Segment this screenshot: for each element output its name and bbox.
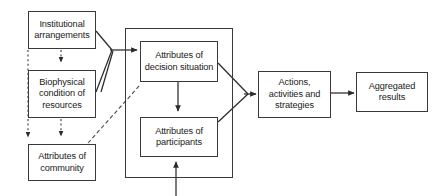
node-aggregated-results[interactable]: Aggregated results [356,72,428,112]
node-biophysical-condition-of-resources[interactable]: Biophysical condition of resources [28,70,96,118]
node-attributes-of-participants-label: Attributes of participants [153,126,205,149]
edge-institutional-to-arena [96,31,112,50]
node-attributes-of-community[interactable]: Attributes of community [28,144,96,181]
node-attributes-of-decision-situation[interactable]: Attributes of decision situation [140,41,218,82]
iad-framework-diagram: Institutional arrangements Biophysical c… [0,0,447,196]
node-actions-activities-and-strategies[interactable]: Actions, activities and strategies [258,71,331,118]
node-attributes-of-community-label: Attributes of community [36,151,88,174]
edge-biophysical-to-arena [96,50,113,92]
node-biophysical-condition-of-resources-label: Biophysical condition of resources [37,77,87,111]
node-institutional-arrangements[interactable]: Institutional arrangements [28,11,96,49]
node-institutional-arrangements-label: Institutional arrangements [32,19,92,42]
node-actions-activities-and-strategies-label: Actions, activities and strategies [267,77,323,111]
node-attributes-of-decision-situation-label: Attributes of decision situation [143,50,216,73]
node-aggregated-results-label: Aggregated results [367,81,418,104]
node-attributes-of-participants[interactable]: Attributes of participants [140,117,218,157]
